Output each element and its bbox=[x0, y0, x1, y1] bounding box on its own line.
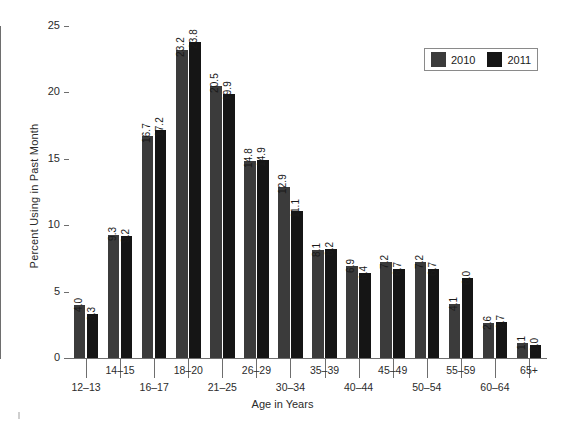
y-axis-tick-label: 0 bbox=[54, 351, 60, 363]
bar bbox=[462, 278, 474, 358]
x-axis-tick-label: 12–13 bbox=[71, 381, 100, 393]
x-axis-tick-label: 35–39 bbox=[310, 364, 339, 376]
bar-value-label: 9.2 bbox=[120, 229, 131, 243]
x-axis-tick-label: 55–59 bbox=[446, 364, 475, 376]
x-axis-tick-mark bbox=[427, 359, 428, 378]
x-axis-title: Age in Years bbox=[0, 398, 565, 410]
bar-value-label: 17.2 bbox=[154, 117, 165, 137]
x-axis-tick-mark bbox=[154, 359, 155, 378]
bar-value-label: 6.4 bbox=[358, 266, 369, 280]
bar-value-label: 2.6 bbox=[482, 316, 493, 330]
bar bbox=[244, 161, 256, 358]
y-axis-tick-label: 10 bbox=[48, 218, 60, 230]
bar bbox=[223, 94, 235, 358]
y-axis-line bbox=[0, 26, 1, 359]
legend-swatch bbox=[487, 52, 502, 67]
x-axis-tick-label: 45–49 bbox=[378, 364, 407, 376]
bar bbox=[74, 305, 86, 358]
bar bbox=[189, 42, 201, 358]
bar-value-label: 6.7 bbox=[427, 262, 438, 276]
legend-label: 2010 bbox=[451, 54, 475, 66]
bar-value-label: 3.3 bbox=[86, 307, 97, 321]
y-axis-tick-mark bbox=[64, 358, 69, 359]
bar bbox=[210, 86, 222, 358]
x-axis-tick-label: 50–54 bbox=[412, 381, 441, 393]
bar bbox=[346, 266, 358, 358]
bar-value-label: 6.9 bbox=[345, 259, 356, 273]
bar-value-label: 6.7 bbox=[392, 262, 403, 276]
x-axis-line bbox=[69, 358, 547, 359]
bar-value-label: 7.2 bbox=[379, 255, 390, 269]
bar-value-label: 16.7 bbox=[141, 123, 152, 143]
y-axis-tick-label: 20 bbox=[48, 85, 60, 97]
bar-value-label: 12.9 bbox=[277, 174, 288, 194]
x-axis-tick-mark bbox=[359, 359, 360, 378]
x-axis-tick-mark bbox=[86, 359, 87, 378]
bar bbox=[155, 130, 167, 358]
bar-value-label: 4.0 bbox=[73, 298, 84, 312]
bar-value-label: 6.0 bbox=[461, 271, 472, 285]
bar bbox=[415, 262, 427, 358]
x-axis-tick-label: 60–64 bbox=[480, 381, 509, 393]
bar-value-label: 1.0 bbox=[529, 338, 540, 352]
x-axis-tick-mark bbox=[290, 359, 291, 378]
bar-value-label: 8.1 bbox=[311, 243, 322, 257]
x-axis-tick-label: 30–34 bbox=[276, 381, 305, 393]
x-axis-tick-label: 14–15 bbox=[105, 364, 134, 376]
bar-value-label: 19.9 bbox=[222, 81, 233, 101]
plot-area: 4.03.39.39.216.717.223.223.820.519.914.8… bbox=[69, 26, 546, 358]
bar bbox=[291, 211, 303, 358]
bar-value-label: 1.1 bbox=[516, 336, 527, 350]
bar-value-label: 8.2 bbox=[324, 242, 335, 256]
y-axis-tick: 15 bbox=[0, 159, 69, 160]
bar-value-label: 2.7 bbox=[495, 315, 506, 329]
bar bbox=[325, 249, 337, 358]
x-axis-tick-mark bbox=[495, 359, 496, 378]
y-axis-tick-label: 25 bbox=[48, 19, 60, 31]
x-axis-tick-label: 21–25 bbox=[208, 381, 237, 393]
bar bbox=[121, 236, 133, 358]
legend: 20102011 bbox=[424, 48, 538, 71]
legend-label: 2011 bbox=[507, 54, 531, 66]
bar bbox=[142, 136, 154, 358]
scan-artifact bbox=[18, 412, 20, 419]
y-axis-tick: 5 bbox=[0, 292, 69, 293]
y-axis-tick: 20 bbox=[0, 92, 69, 93]
y-axis-tick-label: 15 bbox=[48, 152, 60, 164]
bar-value-label: 9.3 bbox=[107, 227, 118, 241]
y-axis-tick: 0 bbox=[0, 358, 69, 359]
bar-value-label: 23.2 bbox=[175, 37, 186, 57]
bar-value-label: 14.8 bbox=[243, 149, 254, 169]
x-axis-tick-label: 40–44 bbox=[344, 381, 373, 393]
bar bbox=[380, 262, 392, 358]
x-axis-tick-label: 16–17 bbox=[140, 381, 169, 393]
x-axis-tick-label: 26–29 bbox=[242, 364, 271, 376]
bar-chart: Percent Using in Past Month 0510152025 1… bbox=[0, 0, 565, 424]
bar-value-label: 23.8 bbox=[188, 29, 199, 49]
bar-value-label: 7.2 bbox=[414, 255, 425, 269]
bar bbox=[108, 235, 120, 359]
x-axis-tick-label: 18–20 bbox=[174, 364, 203, 376]
bar bbox=[393, 269, 405, 358]
bar bbox=[312, 250, 324, 358]
bar-value-label: 4.1 bbox=[448, 296, 459, 310]
x-axis-tick-mark bbox=[222, 359, 223, 378]
y-axis-tick-label: 5 bbox=[54, 285, 60, 297]
y-axis-tick: 10 bbox=[0, 225, 69, 226]
x-axis-tick-label: 65+ bbox=[520, 364, 538, 376]
bar-value-label: 14.9 bbox=[256, 147, 267, 167]
y-axis-title: Percent Using in Past Month bbox=[28, 66, 40, 326]
bar bbox=[278, 187, 290, 358]
legend-item: 2010 bbox=[431, 52, 475, 67]
bar bbox=[176, 50, 188, 358]
y-axis-tick: 25 bbox=[0, 26, 69, 27]
bar bbox=[428, 269, 440, 358]
bar bbox=[257, 160, 269, 358]
legend-swatch bbox=[431, 52, 446, 67]
bar bbox=[449, 304, 461, 358]
legend-item: 2011 bbox=[487, 52, 531, 67]
bar bbox=[359, 273, 371, 358]
bar-value-label: 20.5 bbox=[209, 73, 220, 93]
bar-value-label: 11.1 bbox=[290, 198, 301, 217]
